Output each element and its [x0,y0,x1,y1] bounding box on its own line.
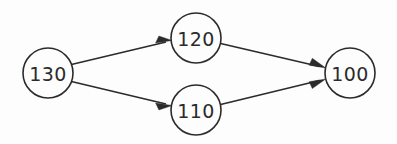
node-label: 130 [29,63,66,85]
edge-130-to-110[interactable] [71,82,172,111]
edge-line [71,42,166,65]
arrowhead-icon [309,79,326,89]
edge-line [71,82,166,105]
node-130[interactable]: 130 [23,48,73,98]
node-label: 120 [177,28,214,50]
node-label: 110 [177,100,214,122]
graph-svg: 130 120 110 100 [0,0,397,144]
arrowhead-icon [156,36,173,43]
edge-120-to-100[interactable] [221,44,326,69]
node-group: 130 120 110 100 [23,13,375,135]
node-label: 100 [331,63,368,85]
edge-line [221,81,320,105]
edge-130-to-120[interactable] [71,36,172,65]
edge-110-to-100[interactable] [221,79,326,105]
diagram-canvas: 130 120 110 100 [0,0,397,144]
arrowhead-icon [309,58,326,68]
node-100[interactable]: 100 [325,48,375,98]
node-110[interactable]: 110 [171,85,221,135]
edge-line [221,44,320,67]
arrowhead-icon [156,103,173,110]
node-120[interactable]: 120 [171,13,221,63]
